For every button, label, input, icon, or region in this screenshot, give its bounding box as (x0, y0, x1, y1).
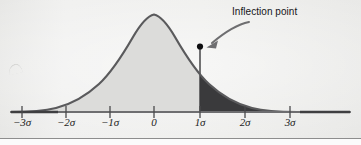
x-tick-label-neg3sigma: −3σ (13, 116, 31, 128)
x-tick-label-neg2sigma: −2σ (57, 116, 75, 128)
bell-curve-chart (0, 0, 361, 145)
x-tick-label-pos2sigma: 2σ (240, 116, 251, 128)
normal-distribution-figure: −3σ −2σ −1σ 0 1σ 2σ 3σ Inflection point (0, 0, 361, 145)
annotation-arrow-shaft (212, 22, 249, 43)
x-tick-label-pos3sigma: 3σ (285, 116, 296, 128)
x-tick-label-zero: 0 (151, 116, 156, 128)
area-under-curve-left (11, 15, 350, 114)
x-tick-label-neg1sigma: −1σ (101, 116, 119, 128)
inflection-point-label: Inflection point (232, 6, 297, 17)
x-tick-label-pos1sigma: 1σ (195, 116, 206, 128)
inflection-point-marker (197, 43, 203, 49)
